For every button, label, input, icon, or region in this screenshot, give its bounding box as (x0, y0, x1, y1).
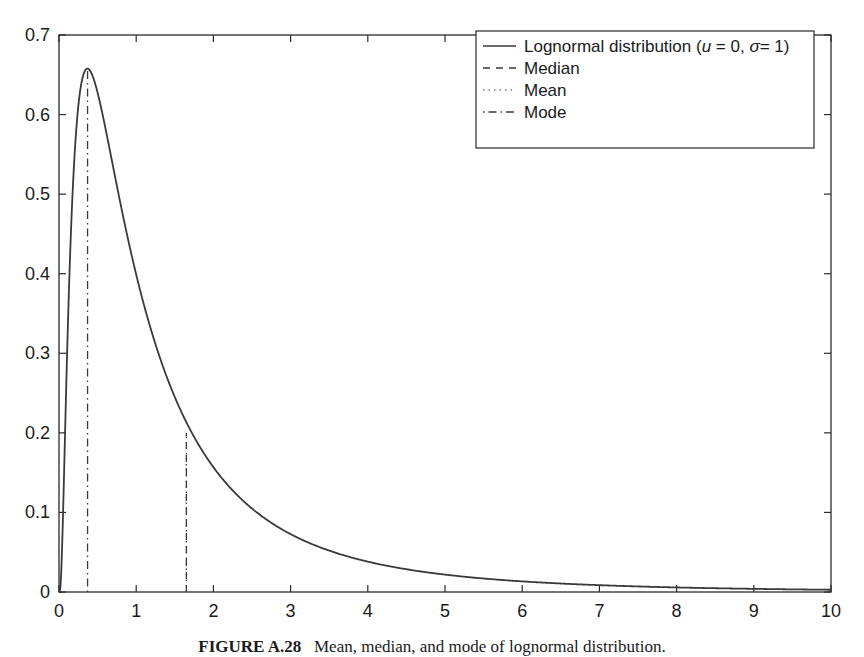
x-tick-label: 9 (749, 601, 759, 621)
x-tick-label: 0 (54, 601, 64, 621)
svg-text:Lognormal distribution (u = 0,: Lognormal distribution (u = 0, σ= 1) (524, 37, 789, 56)
x-tick-label: 2 (208, 601, 218, 621)
y-tick-label: 0.5 (25, 184, 50, 204)
x-tick-label: 1 (131, 601, 141, 621)
figure-caption-text: Mean, median, and mode of lognormal dist… (314, 637, 666, 656)
statistic-lines (88, 69, 187, 592)
y-tick-label: 0.4 (25, 264, 50, 284)
x-axis-tick-labels: 012345678910 (54, 601, 841, 621)
x-tick-label: 7 (594, 601, 604, 621)
legend-label-lognormal: Lognormal distribution ( (524, 37, 702, 56)
x-tick-label: 10 (821, 601, 841, 621)
legend-label-mode: Mode (524, 103, 567, 122)
y-tick-label: 0 (40, 582, 50, 602)
legend-label-mean: Mean (524, 81, 567, 100)
x-tick-label: 3 (286, 601, 296, 621)
x-tick-label: 6 (517, 601, 527, 621)
y-tick-label: 0.2 (25, 423, 50, 443)
y-tick-label: 0.6 (25, 105, 50, 125)
y-tick-label: 0.7 (25, 25, 50, 45)
y-tick-label: 0.1 (25, 502, 50, 522)
x-tick-label: 8 (672, 601, 682, 621)
legend-label-median: Median (524, 59, 580, 78)
legend: Lognormal distribution (u = 0, σ= 1) Med… (476, 31, 814, 148)
y-tick-label: 0.3 (25, 343, 50, 363)
y-axis-tick-labels: 00.10.20.30.40.50.60.7 (25, 25, 50, 602)
legend-item-lognormal: Lognormal distribution (u = 0, σ= 1) (483, 37, 789, 56)
x-tick-label: 5 (440, 601, 450, 621)
figure-caption-number: FIGURE A.28 (198, 637, 301, 656)
x-tick-label: 4 (363, 601, 373, 621)
figure-caption: FIGURE A.28 Mean, median, and mode of lo… (0, 637, 864, 657)
